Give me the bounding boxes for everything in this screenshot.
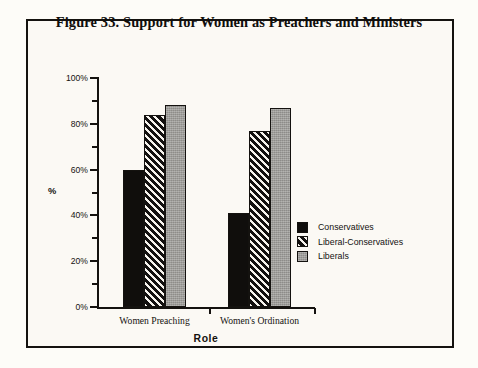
legend-label: Conservatives bbox=[318, 222, 374, 232]
legend-item: Liberals bbox=[297, 249, 403, 264]
x-axis-title: Role bbox=[97, 333, 315, 344]
x-axis-group-label: Women's Ordination bbox=[220, 315, 299, 326]
x-axis-line bbox=[97, 307, 315, 309]
y-axis-tick-major bbox=[90, 214, 98, 216]
legend-label: Liberal-Conservatives bbox=[318, 237, 403, 247]
x-axis-tick bbox=[314, 308, 316, 314]
legend-swatch-icon bbox=[297, 251, 308, 262]
bar-liberals-women-s-ordination bbox=[270, 108, 291, 307]
bar-liberal-conservatives-women-s-ordination bbox=[249, 131, 270, 307]
y-axis-tick-minor bbox=[92, 192, 98, 194]
legend-swatch-icon bbox=[297, 222, 308, 233]
y-axis-tick-major bbox=[90, 306, 98, 308]
y-axis-tick-major bbox=[90, 260, 98, 262]
legend-label: Liberals bbox=[318, 251, 349, 261]
y-axis-tick-labels: 0%20%40%60%80%100% bbox=[36, 0, 88, 368]
y-axis-tick-major bbox=[90, 77, 98, 79]
y-axis-title: % bbox=[48, 186, 56, 196]
y-axis-tick-major bbox=[90, 123, 98, 125]
x-axis-group-label: Women Preaching bbox=[119, 315, 189, 326]
y-axis-tick-minor bbox=[92, 283, 98, 285]
y-axis-tick-minor bbox=[92, 100, 98, 102]
legend-item: Conservatives bbox=[297, 220, 403, 235]
y-axis-tick-label: 100% bbox=[42, 73, 88, 83]
x-axis-tick bbox=[209, 308, 211, 314]
legend-item: Liberal-Conservatives bbox=[297, 235, 403, 250]
bar-liberals-women-preaching bbox=[165, 105, 186, 307]
figure-root: Figure 33. Support for Women as Preacher… bbox=[0, 0, 478, 368]
y-axis-tick-minor bbox=[92, 237, 98, 239]
bar-conservatives-women-preaching bbox=[123, 170, 144, 307]
y-axis-tick-label: 0% bbox=[42, 302, 88, 312]
legend: ConservativesLiberal-ConservativesLibera… bbox=[297, 220, 403, 264]
y-axis-tick-label: 80% bbox=[42, 119, 88, 129]
legend-swatch-icon bbox=[297, 236, 308, 247]
y-axis-tick-minor bbox=[92, 146, 98, 148]
y-axis-tick-major bbox=[90, 169, 98, 171]
bar-conservatives-women-s-ordination bbox=[228, 213, 249, 307]
y-axis-tick-label: 40% bbox=[42, 210, 88, 220]
y-axis-tick-label: 20% bbox=[42, 256, 88, 266]
bar-liberal-conservatives-women-preaching bbox=[144, 115, 165, 307]
y-axis-tick-label: 60% bbox=[42, 165, 88, 175]
